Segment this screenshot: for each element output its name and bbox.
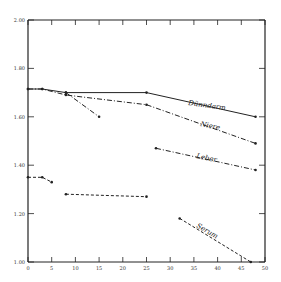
label-leber: Leber	[195, 152, 219, 164]
label-duenndarm: Dünndarm	[187, 99, 227, 112]
series-line	[28, 89, 256, 143]
x-tick-label: 35	[191, 265, 197, 271]
data-point	[254, 142, 257, 145]
x-tick-label: 50	[262, 265, 268, 271]
label-serum: Serum	[195, 222, 220, 241]
series-line	[66, 93, 99, 117]
x-ticks: 05101520253035404550	[26, 20, 268, 271]
y-tick-label: 1.40	[14, 162, 25, 168]
y-tick-label: 1.60	[14, 114, 25, 120]
y-tick-label: 2.00	[14, 17, 25, 23]
data-point	[254, 169, 257, 172]
x-tick-label: 40	[214, 265, 220, 271]
y-tick-label: 1.00	[14, 259, 25, 265]
data-point	[65, 94, 68, 97]
y-ticks: 1.001.201.401.601.802.00	[14, 17, 265, 265]
data-point	[145, 91, 148, 94]
data-point	[178, 217, 181, 220]
x-tick-label: 5	[50, 265, 53, 271]
data-point	[145, 195, 148, 198]
data-point	[98, 116, 101, 119]
series-line	[28, 177, 52, 182]
x-tick-label: 30	[167, 265, 173, 271]
data-point	[41, 88, 44, 91]
series-lines	[27, 88, 257, 264]
x-tick-label: 10	[72, 265, 78, 271]
y-tick-label: 1.20	[14, 211, 25, 217]
data-point	[41, 176, 44, 179]
x-tick-label: 45	[238, 265, 244, 271]
x-tick-label: 15	[96, 265, 102, 271]
data-point	[254, 116, 257, 119]
data-point	[249, 261, 252, 264]
label-niere: Niere	[199, 120, 221, 132]
data-point	[50, 181, 53, 184]
data-point	[27, 176, 30, 179]
data-point	[65, 193, 68, 196]
x-tick-label: 20	[120, 265, 126, 271]
data-point	[155, 147, 158, 150]
data-point	[145, 103, 148, 106]
chart-canvas: 05101520253035404550 1.001.201.401.601.8…	[0, 0, 281, 282]
x-tick-label: 0	[26, 265, 29, 271]
data-point	[27, 88, 30, 91]
data-point	[65, 91, 68, 94]
x-tick-label: 25	[143, 265, 149, 271]
y-tick-label: 1.80	[14, 65, 25, 71]
series-line	[66, 194, 147, 197]
